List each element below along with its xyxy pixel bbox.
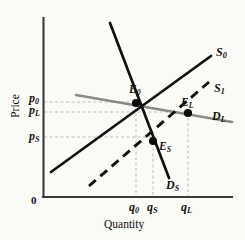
x-tick-qS: qS — [147, 201, 158, 213]
x-tick-q0: q0 — [129, 201, 139, 213]
point-label-E0-base: E — [129, 83, 137, 95]
point-label-ES: ES — [159, 141, 171, 153]
curve-DS — [110, 23, 169, 178]
x-tick-qS-sub: S — [153, 206, 158, 215]
curve-label-S0-base: S — [216, 45, 223, 59]
supply-demand-figure: Price Quantity 0 p0 pL pS q0 qS qL S0 S1… — [0, 0, 245, 240]
curve-label-S1-sub: 1 — [221, 87, 225, 96]
origin-label: 0 — [31, 195, 37, 206]
point-label-E0: E0 — [129, 84, 141, 96]
point-E0 — [132, 99, 140, 107]
curve-label-S0: S0 — [216, 46, 227, 58]
curve-label-DS-base: D — [166, 178, 175, 192]
y-tick-pL: pL — [29, 104, 40, 116]
curve-DL — [76, 95, 232, 122]
x-tick-q0-sub: 0 — [135, 206, 139, 215]
curve-label-S1: S1 — [214, 82, 225, 94]
point-label-ES-sub: S — [167, 145, 171, 154]
x-tick-qL-sub: L — [187, 206, 192, 215]
point-label-EL: EL — [181, 97, 193, 109]
axis-lines — [43, 18, 232, 197]
curve-label-DL-sub: L — [221, 115, 226, 124]
curve-label-DL: DL — [212, 110, 226, 122]
point-EL — [184, 109, 192, 117]
x-axis-title: Quantity — [104, 219, 144, 231]
y-axis-title: Price — [9, 84, 21, 128]
curve-label-DS-sub: S — [175, 184, 180, 193]
curve-label-S0-sub: 0 — [223, 51, 227, 60]
curve-label-DL-base: D — [212, 109, 221, 123]
y-tick-pS: pS — [29, 130, 40, 142]
curve-label-DS: DS — [166, 179, 179, 191]
curve-label-S1-base: S — [214, 81, 221, 95]
point-label-EL-sub: L — [189, 101, 194, 110]
y-tick-pL-sub: L — [35, 109, 40, 118]
x-tick-qL: qL — [181, 201, 192, 213]
point-label-E0-sub: 0 — [137, 88, 141, 97]
y-tick-pS-sub: S — [35, 135, 40, 144]
point-label-EL-base: E — [181, 96, 189, 108]
point-label-ES-base: E — [159, 140, 167, 152]
point-ES — [149, 137, 157, 145]
